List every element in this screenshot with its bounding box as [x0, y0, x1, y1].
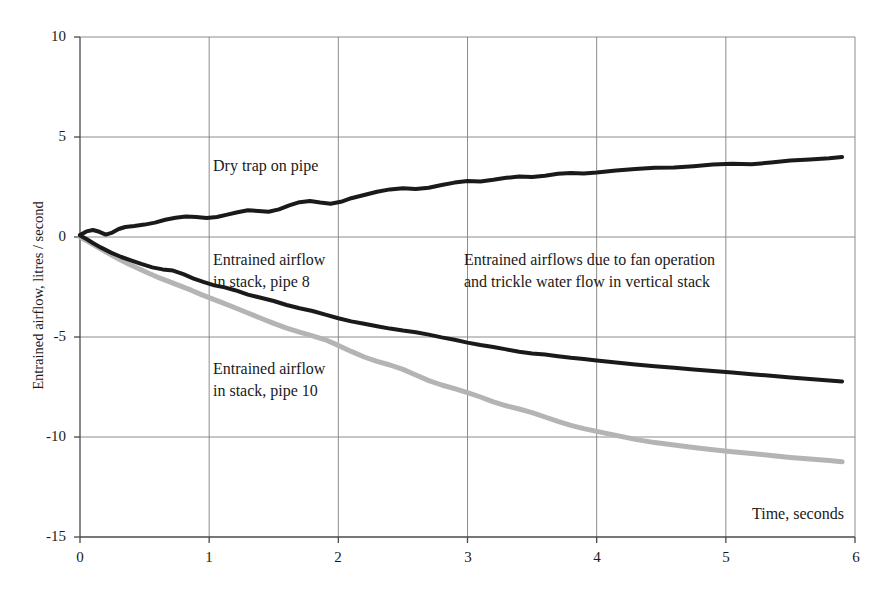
x-tick-label-4: 4 [577, 549, 617, 566]
chart-caption-annotation: Entrained airflows due to fan operation … [464, 249, 715, 293]
chart-figure: 10 5 0 -5 -10 -15 0 1 2 3 4 5 6 Entraine… [0, 0, 888, 600]
series-label-dry-trap: Dry trap on pipe [213, 155, 318, 177]
x-tick-label-2: 2 [318, 549, 358, 566]
series-line [80, 235, 842, 381]
y-tick-label-neg10: -10 [20, 428, 66, 445]
x-tick-label-0: 0 [60, 549, 100, 566]
x-tick-label-5: 5 [706, 549, 746, 566]
y-tick-label-10: 10 [20, 28, 66, 45]
x-axis-title: Time, seconds [752, 503, 844, 525]
y-axis-title: Entrained airflow, litres / second [30, 166, 47, 426]
series-line [80, 157, 842, 235]
x-tick-label-6: 6 [836, 549, 876, 566]
y-tick-label-5: 5 [20, 128, 66, 145]
series-label-pipe-8: Entrained airflow in stack, pipe 8 [213, 249, 325, 293]
series-line [80, 237, 842, 462]
y-tick-label-neg15: -15 [20, 528, 66, 545]
series-label-pipe-10: Entrained airflow in stack, pipe 10 [213, 358, 325, 402]
x-tick-label-3: 3 [448, 549, 488, 566]
x-tick-label-1: 1 [189, 549, 229, 566]
